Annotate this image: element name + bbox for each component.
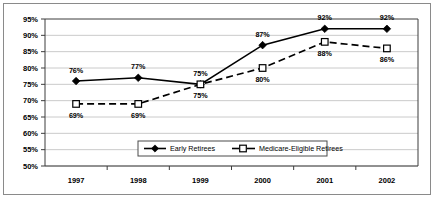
y-axis-tick-label: 65% [23, 113, 38, 122]
data-point-marker [197, 81, 204, 88]
data-point-label: 77% [131, 62, 146, 71]
data-point-marker [321, 39, 328, 46]
data-point-marker [384, 45, 391, 52]
y-axis-tick-label: 60% [23, 129, 38, 138]
y-axis-tick-label: 85% [23, 47, 38, 56]
y-axis-tick-label: 55% [23, 145, 38, 154]
data-point-marker [259, 65, 266, 72]
y-axis-tick-label: 80% [23, 64, 38, 73]
x-axis-tick-label: 1997 [68, 176, 85, 185]
x-axis-tick-label: 2000 [254, 176, 271, 185]
data-point-marker [135, 101, 142, 108]
legend-label-medicare-eligible-retirees: Medicare-Eligible Retirees [259, 144, 343, 153]
chart-container: 50%55%60%65%70%75%80%85%90%95% 199719981… [0, 0, 437, 199]
data-point-label: 92% [380, 13, 395, 22]
legend-label-early-retirees: Early Retirees [170, 144, 216, 153]
series-line-medicare-eligible-retirees [76, 42, 387, 104]
x-axis-tick-label: 1998 [130, 176, 147, 185]
data-point-marker [134, 74, 142, 82]
data-point-label: 80% [255, 75, 270, 84]
y-axis-tick-label: 90% [23, 31, 38, 40]
data-point-marker [72, 77, 80, 85]
x-axis-tick-label: 2002 [379, 176, 396, 185]
y-axis-tick-label: 70% [23, 96, 38, 105]
data-point-label: 88% [318, 49, 333, 58]
x-axis-tick-labels: 199719981999200020012002 [68, 176, 396, 185]
data-point-label: 87% [255, 30, 270, 39]
data-point-marker [321, 25, 329, 33]
data-point-label: 69% [69, 111, 84, 120]
data-point-marker [259, 41, 267, 49]
data-point-label: 92% [318, 13, 333, 22]
data-point-label: 86% [380, 55, 395, 64]
line-chart: 50%55%60%65%70%75%80%85%90%95% 199719981… [0, 0, 437, 199]
y-axis-tick-label: 50% [23, 162, 38, 171]
series-layer [72, 25, 390, 107]
data-point-label: 75% [193, 69, 208, 78]
data-point-label: 75% [193, 91, 208, 100]
y-axis-tick-labels: 50%55%60%65%70%75%80%85%90%95% [23, 15, 38, 171]
data-point-label: 69% [131, 111, 146, 120]
data-point-marker [73, 101, 80, 108]
data-point-label: 76% [69, 66, 84, 75]
legend-marker-square-icon [240, 145, 247, 152]
data-point-marker [383, 25, 391, 33]
chart-legend[interactable]: Early RetireesMedicare-Eligible Retirees [138, 141, 343, 156]
y-axis-tick-label: 75% [23, 80, 38, 89]
y-axis-tick-label: 95% [23, 15, 38, 24]
x-axis-tick-label: 1999 [192, 176, 209, 185]
x-axis-tick-label: 2001 [316, 176, 333, 185]
